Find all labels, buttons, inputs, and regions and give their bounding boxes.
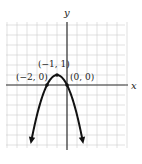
parabola-graph: x y (−1, 1) (−2, 0) (0, 0) xyxy=(0,0,142,164)
arrow-left-icon xyxy=(29,137,35,145)
left-intercept-label: (−2, 0) xyxy=(16,72,48,82)
right-intercept-label: (0, 0) xyxy=(70,72,94,82)
x-axis-label: x xyxy=(131,80,137,91)
arrow-right-icon xyxy=(79,137,85,145)
right-intercept-point xyxy=(65,83,69,87)
vertex-point xyxy=(55,73,59,77)
left-intercept-point xyxy=(45,83,49,87)
y-axis-label: y xyxy=(63,7,70,18)
vertex-label: (−1, 1) xyxy=(38,59,70,69)
